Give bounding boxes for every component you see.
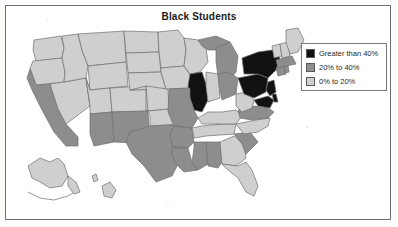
legend-item-20-to-40: 20% to 40% bbox=[306, 61, 382, 74]
legend-label-0-to-20: 0% to 20% bbox=[319, 77, 355, 86]
legend-item-0-to-20: 0% to 20% bbox=[306, 75, 382, 88]
state-WY bbox=[88, 62, 128, 90]
legend-label-20-to-40: 20% to 40% bbox=[319, 63, 359, 72]
state-AL bbox=[206, 142, 222, 168]
state-OR bbox=[30, 58, 65, 85]
state-ND bbox=[124, 31, 159, 53]
state-KY bbox=[198, 110, 242, 124]
state-SD bbox=[126, 52, 161, 73]
state-AK-panhandle bbox=[68, 176, 80, 194]
state-IN bbox=[206, 72, 220, 102]
state-AK-aleutians bbox=[28, 190, 78, 200]
state-NC bbox=[236, 118, 270, 134]
state-KS-b bbox=[146, 86, 169, 111]
state-FL bbox=[222, 162, 258, 196]
state-OH bbox=[218, 72, 238, 100]
state-HI-small bbox=[92, 174, 98, 182]
state-AR bbox=[170, 126, 194, 148]
us-map-svg bbox=[6, 6, 390, 219]
swatch-20-to-40-icon bbox=[306, 63, 315, 72]
swatch-0-to-20-icon bbox=[306, 77, 315, 86]
state-HI-inset bbox=[102, 182, 116, 198]
state-AZ bbox=[90, 112, 114, 146]
figure-container: Black Students bbox=[0, 0, 398, 227]
state-MN bbox=[158, 30, 186, 68]
state-WA bbox=[33, 36, 64, 61]
choropleth-map bbox=[6, 6, 390, 219]
legend-item-greater-than-40: Greater than 40% bbox=[306, 47, 382, 60]
state-TN bbox=[192, 124, 236, 138]
legend-label-greater-than-40: Greater than 40% bbox=[319, 49, 378, 58]
state-AK-inset bbox=[28, 158, 68, 188]
swatch-greater-than-40-icon bbox=[306, 49, 315, 58]
map-legend: Greater than 40% 20% to 40% 0% to 20% bbox=[301, 43, 387, 91]
